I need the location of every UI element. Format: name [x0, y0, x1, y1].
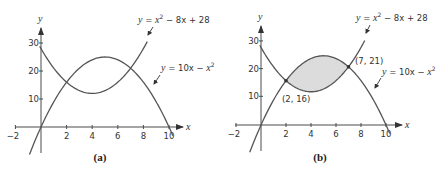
x-tick-label: 2	[283, 129, 288, 139]
panel-caption: (a)	[94, 151, 107, 164]
intersection-point	[284, 79, 288, 83]
y-tick-label: 30	[248, 36, 259, 46]
y-tick-label: 30	[28, 38, 39, 48]
y-tick-label: 10	[248, 91, 259, 101]
x-tick-label: 4	[89, 131, 94, 141]
x-tick-label: −2	[228, 129, 241, 139]
x-tick-label: 4	[308, 129, 313, 139]
pointer-arrow	[148, 27, 153, 35]
x-tick-label: 2	[64, 131, 69, 141]
x-tick-label: 10	[164, 131, 175, 141]
x-tick-label: 8	[358, 129, 363, 139]
x-tick-label: 6	[115, 131, 120, 141]
panel-caption: (b)	[313, 151, 327, 164]
y-tick-label: 20	[28, 66, 39, 76]
equation-label-2: y = 10x − x2	[381, 65, 436, 77]
pointer-arrow	[375, 78, 381, 88]
pointer-arrow	[366, 25, 370, 33]
curve-10x-minus-x2	[29, 57, 172, 154]
x-tick-label: 8	[141, 131, 146, 141]
x-tick-label: 10	[381, 129, 392, 139]
equation-label-1: y = x2 − 8x + 28	[355, 11, 428, 23]
y-tick-label: 20	[248, 64, 259, 74]
x-axis-label: x	[185, 121, 191, 132]
y-axis-label: y	[257, 11, 263, 22]
figure: x y −2 2 4 6 8 10 10 20 30	[0, 0, 438, 177]
y-axis-label: y	[37, 13, 43, 24]
x-tick-label: 6	[333, 129, 338, 139]
equation-label-2: y = 10x − x2	[160, 61, 215, 73]
intersection-point	[347, 65, 351, 69]
y-tick-label: 10	[28, 94, 39, 104]
shaded-region	[286, 56, 349, 92]
equation-label-1: y = x2 − 8x + 28	[137, 13, 210, 25]
panel-a: x y −2 2 4 6 8 10 10 20 30	[7, 13, 215, 164]
panel-b: x y −2 2 4 6 8 10 10 20 30 (2, 1	[228, 11, 436, 164]
point-label: (7, 21)	[355, 56, 383, 66]
x-axis-label: x	[404, 119, 410, 130]
curve-x2-minus-8x-plus-28	[40, 42, 148, 94]
pointer-arrow	[154, 75, 160, 84]
x-tick-label: −2	[7, 131, 20, 141]
point-label: (2, 16)	[282, 94, 310, 104]
